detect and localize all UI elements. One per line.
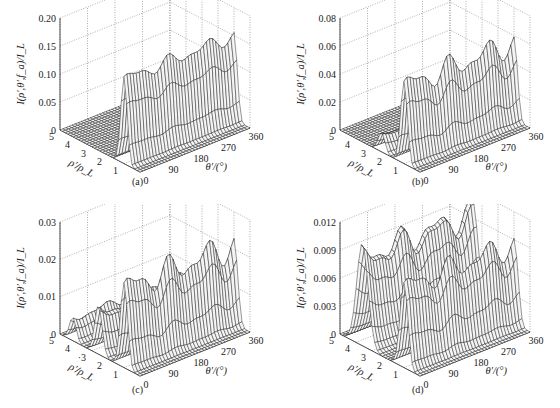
svg-text:4: 4 [345,139,350,150]
svg-text:5: 5 [49,131,54,142]
svg-text:2: 2 [97,156,102,167]
svg-text:2: 2 [377,156,382,167]
svg-text:0.06: 0.06 [319,41,337,52]
svg-text:90: 90 [169,368,179,379]
svg-text:90: 90 [449,368,459,379]
y-axis-label: ρ′/ρ_L [347,156,376,179]
svg-text:0.03: 0.03 [39,217,57,228]
svg-text:270: 270 [221,346,236,357]
svg-text:1: 1 [113,369,118,380]
subplot-c: 00.010.020.0309018027036012·345I(ρ′,θ′,f… [0,204,280,408]
svg-text:270: 270 [221,142,236,153]
z-axis-label: I(ρ′,θ′,f_a)/I_L [15,43,27,106]
svg-text:0.10: 0.10 [39,69,57,80]
svg-text:3: 3 [361,352,366,363]
svg-text:5: 5 [49,335,54,346]
svg-text:0.01: 0.01 [39,291,57,302]
svg-text:0.15: 0.15 [39,41,57,52]
surface-plot-a: 00.050.100.150.2009018027036012345I(ρ′,θ… [0,0,280,204]
svg-text:360: 360 [529,335,544,346]
svg-text:0.20: 0.20 [39,13,57,24]
subplot-d: 00.0030.0060.0090.01209018027036012345I(… [280,204,560,408]
svg-text:1: 1 [113,165,118,176]
x-axis-label: θ′/(°) [485,365,507,377]
z-axis-label: I(ρ′,θ′,f_a)/I_L [15,247,27,310]
svg-text:0: 0 [424,379,429,390]
x-axis-label: θ′/(°) [205,365,227,377]
svg-text:1: 1 [393,165,398,176]
surface-plot-d: 00.0030.0060.0090.01209018027036012345I(… [280,204,560,408]
svg-text:4: 4 [345,343,350,354]
z-axis-label: I(ρ′,θ′,f_a)/I_L [295,247,307,310]
svg-text:360: 360 [529,131,544,142]
y-axis-label: ρ′/ρ_L [67,360,96,383]
svg-text:360: 360 [249,335,264,346]
surface-plot-c: 00.010.020.0309018027036012·345I(ρ′,θ′,f… [0,204,280,408]
svg-text:0.04: 0.04 [319,69,337,80]
svg-text:1: 1 [393,369,398,380]
svg-text:0.006: 0.006 [314,273,337,284]
svg-text:0.003: 0.003 [314,301,337,312]
subplot-b: 00.020.040.060.0809018027036012345I(ρ′,θ… [280,0,560,204]
svg-text:0.08: 0.08 [319,13,337,24]
svg-text:0.05: 0.05 [39,97,57,108]
svg-text:0.02: 0.02 [319,97,337,108]
svg-text:360: 360 [249,131,264,142]
caption-a: (a) [132,176,143,187]
svg-text:270: 270 [501,142,516,153]
caption-d: (d) [412,384,424,395]
svg-text:0: 0 [144,175,149,186]
caption-b: (b) [412,176,424,187]
svg-text:4: 4 [65,139,70,150]
subplot-a: 00.050.100.150.2009018027036012345I(ρ′,θ… [0,0,280,204]
surface-plot-b: 00.020.040.060.0809018027036012345I(ρ′,θ… [280,0,560,204]
svg-text:5: 5 [329,131,334,142]
svg-text:2: 2 [377,360,382,371]
svg-text:270: 270 [501,346,516,357]
x-axis-label: θ′/(°) [205,161,227,173]
svg-text:0.02: 0.02 [39,254,57,265]
x-axis-label: θ′/(°) [485,161,507,173]
svg-text:0.012: 0.012 [314,217,337,228]
y-axis-label: ρ′/ρ_L [347,360,376,383]
svg-text:5: 5 [329,335,334,346]
svg-text:·3: ·3 [78,352,86,363]
svg-text:3: 3 [81,148,86,159]
y-axis-label: ρ′/ρ_L [67,156,96,179]
caption-c: (c) [132,384,143,395]
svg-text:2: 2 [97,360,102,371]
svg-text:90: 90 [169,164,179,175]
svg-text:0: 0 [144,379,149,390]
svg-text:3: 3 [361,148,366,159]
svg-text:0: 0 [424,175,429,186]
svg-text:90: 90 [449,164,459,175]
svg-text:4: 4 [65,343,70,354]
z-axis-label: I(ρ′,θ′,f_a)/I_L [295,43,307,106]
svg-text:0.009: 0.009 [314,245,337,256]
